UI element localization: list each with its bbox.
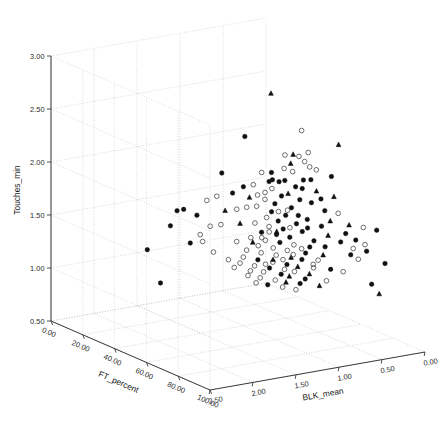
floor-gridline-ft [115,311,330,349]
data-point-filled-circle [374,228,379,233]
data-point-open-circle [274,253,279,258]
data-point-filled-circle [323,208,328,213]
data-point-open-circle [292,269,297,274]
data-point-filled-circle [298,197,303,202]
data-point-filled-circle [312,239,317,244]
data-point-triangle [247,195,252,200]
data-point-open-circle [361,225,366,230]
data-point-filled-circle [241,184,246,189]
left-wall-gridline-horizontal [51,162,210,231]
data-point-open-circle [316,258,321,263]
data-point-open-circle [263,190,268,195]
data-point-filled-circle [273,201,278,206]
tick-label-blk-mean: 2.00 [251,387,267,398]
data-point-open-circle [281,257,286,262]
data-point-triangle [332,194,337,199]
tick-label-touches-min: 1.50 [30,211,44,220]
axis-layer [47,56,425,394]
data-point-filled-circle [269,210,274,215]
data-point-filled-circle [309,177,314,182]
data-point-open-circle [324,278,329,283]
data-point-filled-circle [294,221,299,226]
data-point-filled-circle [281,227,286,232]
data-point-filled-circle [267,179,272,184]
data-point-open-circle [248,269,253,274]
data-point-open-circle [292,243,297,248]
data-point-triangle [271,257,276,262]
tick-label-blk-mean: 0.50 [380,364,396,375]
data-point-open-circle [263,197,268,202]
data-point-open-circle [280,285,285,290]
data-point-triangle [326,233,331,238]
data-point-filled-circle [303,251,308,256]
data-point-open-circle [311,262,316,267]
data-point-filled-circle [279,272,284,277]
data-point-open-circle [267,230,272,235]
tick-label-blk-mean: 1.50 [294,379,310,390]
data-point-filled-circle [277,179,282,184]
data-point-open-circle [259,250,264,255]
data-point-filled-circle [328,267,333,272]
tick-label-touches-min: 3.00 [30,52,44,61]
data-point-filled-circle [309,200,314,205]
data-point-open-circle [302,159,307,164]
floor-gridline-blk [266,283,425,352]
data-point-open-circle [314,167,319,172]
data-point-open-circle [285,208,290,213]
data-point-open-circle [211,250,216,255]
data-point-open-circle [226,257,231,262]
data-point-filled-circle [158,281,163,286]
tick-label-ft-percent: 80.00 [166,380,187,396]
data-point-filled-circle [293,184,298,189]
data-point-filled-circle [329,174,334,179]
tick-label-touches-min: 2.00 [30,158,44,167]
tick-label-blk-mean: 1.00 [337,372,353,383]
tick-label-blk-mean: 0.00 [423,356,439,367]
data-point-filled-circle [369,282,374,287]
data-point-open-circle [200,239,205,244]
data-point-open-circle [259,235,264,240]
data-point-open-circle [261,269,266,274]
data-point-triangle [291,152,296,157]
data-point-open-circle [263,262,268,267]
data-point-open-circle [336,211,341,216]
data-point-triangle [274,229,279,234]
data-point-triangle [314,188,319,193]
data-point-open-circle [283,153,288,158]
data-point-open-circle [255,193,260,198]
data-point-open-circle [204,198,209,203]
left-wall-gridline-horizontal [51,109,210,178]
data-point-filled-circle [343,231,348,236]
data-point-open-circle [306,150,311,155]
data-point-triangle [321,252,326,257]
data-point-open-circle [251,182,256,187]
data-point-filled-circle [285,262,290,267]
data-point-open-circle [273,278,278,283]
data-point-triangle [286,191,291,196]
data-point-open-circle [234,207,239,212]
data-point-open-circle [248,235,253,240]
data-point-triangle [295,264,300,269]
data-point-open-circle [276,209,281,214]
data-point-filled-circle [300,257,305,262]
data-point-open-circle [271,246,276,251]
left-wall-gridline-horizontal [51,215,210,284]
data-point-filled-circle [300,186,305,191]
data-point-triangle [284,280,289,285]
data-point-filled-circle [364,249,369,254]
data-point-triangle [238,221,243,226]
back-wall-gridline-horizontal [51,18,266,56]
data-point-filled-circle [288,235,293,240]
back-wall-gridline-horizontal [51,71,266,109]
data-point-filled-circle [230,191,235,196]
data-point-open-circle [267,224,272,229]
data-point-open-circle [234,239,239,244]
tick-label-touches-min: 2.50 [30,105,44,114]
data-point-open-circle [254,204,259,209]
back-wall-gridline-horizontal [51,230,266,268]
data-point-triangle [287,274,292,279]
tick-label-blk-mean: 2.50 [208,394,224,405]
data-point-filled-circle [256,258,261,263]
data-point-filled-circle [278,240,283,245]
left-wall-gridline-horizontal [51,268,210,337]
